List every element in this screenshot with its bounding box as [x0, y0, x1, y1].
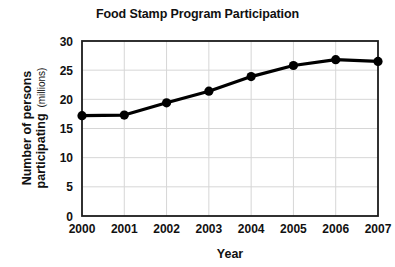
- x-tick-label: 2006: [322, 222, 349, 236]
- y-tick-label: 30: [60, 35, 74, 49]
- y-axis-title-group: Number of persons participating (million…: [20, 68, 48, 189]
- y-tick-label: 10: [60, 151, 74, 165]
- y-axis-title-line2: participating (millions): [34, 68, 48, 189]
- y-axis-tick-labels: 051015202530: [60, 35, 74, 224]
- y-axis-title-text: participating: [34, 113, 48, 188]
- x-tick-label: 2000: [69, 222, 96, 236]
- y-axis-unit-text: (millions): [36, 68, 47, 111]
- data-point-marker: [331, 55, 340, 64]
- data-series-line: [82, 60, 378, 116]
- data-point-marker: [162, 98, 171, 107]
- x-tick-label: 2007: [365, 222, 392, 236]
- y-tick-label: 15: [60, 122, 74, 136]
- data-point-markers: [77, 55, 382, 120]
- y-tick-label: 5: [66, 180, 73, 194]
- y-tick-label: 20: [60, 93, 74, 107]
- data-point-marker: [77, 111, 86, 120]
- horizontal-gridlines: [82, 70, 378, 187]
- data-point-marker: [204, 87, 213, 96]
- x-tick-label: 2004: [238, 222, 265, 236]
- x-tick-label: 2001: [111, 222, 138, 236]
- chart-figure: Food Stamp Program Participation 0510152…: [0, 0, 395, 267]
- x-tick-label: 2003: [196, 222, 223, 236]
- data-point-marker: [373, 57, 382, 66]
- x-tick-label: 2002: [153, 222, 180, 236]
- y-tick-label: 25: [60, 64, 74, 78]
- y-axis-title-line1: Number of persons: [20, 71, 34, 186]
- line-chart-plot: 051015202530 200020012002200320042005200…: [0, 0, 395, 267]
- data-point-marker: [120, 110, 129, 119]
- x-axis-title: Year: [217, 247, 244, 261]
- x-tick-label: 2005: [280, 222, 307, 236]
- data-point-marker: [289, 61, 298, 70]
- data-point-marker: [247, 72, 256, 81]
- x-axis-tick-labels: 20002001200220032004200520062007: [69, 222, 392, 236]
